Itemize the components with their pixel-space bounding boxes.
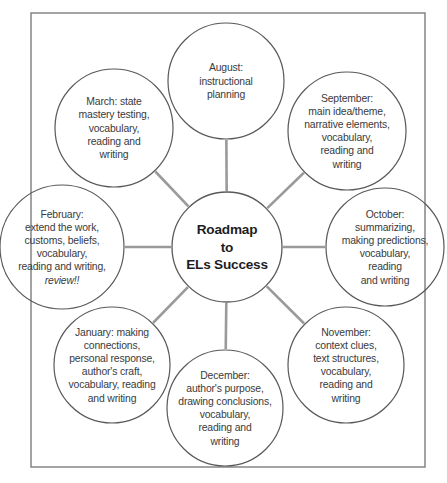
node-september[interactable]: September:main idea/theme,narrative elem… bbox=[288, 72, 406, 190]
node-november[interactable]: November:context clues,text structures,v… bbox=[288, 307, 404, 423]
roadmap-svg-canvas: August:instructionalplanningSeptember:ma… bbox=[0, 0, 447, 483]
node-circle-december bbox=[167, 350, 283, 466]
node-circle-september bbox=[288, 72, 406, 190]
node-february[interactable]: February:extend the work,customs, belief… bbox=[0, 185, 124, 309]
node-august[interactable]: August:instructionalplanning bbox=[168, 23, 284, 139]
center-hub: RoadmaptoELs Success bbox=[172, 192, 282, 302]
node-january[interactable]: January: makingconnections,personal resp… bbox=[54, 307, 170, 423]
spoke-november bbox=[267, 286, 304, 323]
spoke-december bbox=[226, 303, 227, 349]
spoke-january bbox=[153, 287, 188, 323]
roadmap-diagram: August:instructionalplanningSeptember:ma… bbox=[0, 0, 447, 483]
node-circle-november bbox=[288, 307, 404, 423]
node-circle-october bbox=[326, 188, 444, 306]
spoke-september bbox=[267, 173, 304, 208]
node-december[interactable]: December:author's purpose,drawing conclu… bbox=[167, 350, 283, 466]
center-node[interactable]: RoadmaptoELs Success bbox=[172, 192, 282, 302]
spoke-march bbox=[155, 172, 188, 207]
node-circle-february bbox=[0, 185, 124, 309]
node-october[interactable]: October:summarizing,making predictions,v… bbox=[326, 188, 444, 306]
node-circle-january bbox=[54, 307, 170, 423]
node-march[interactable]: March: statemastery testing,vocabulary,r… bbox=[55, 69, 173, 187]
